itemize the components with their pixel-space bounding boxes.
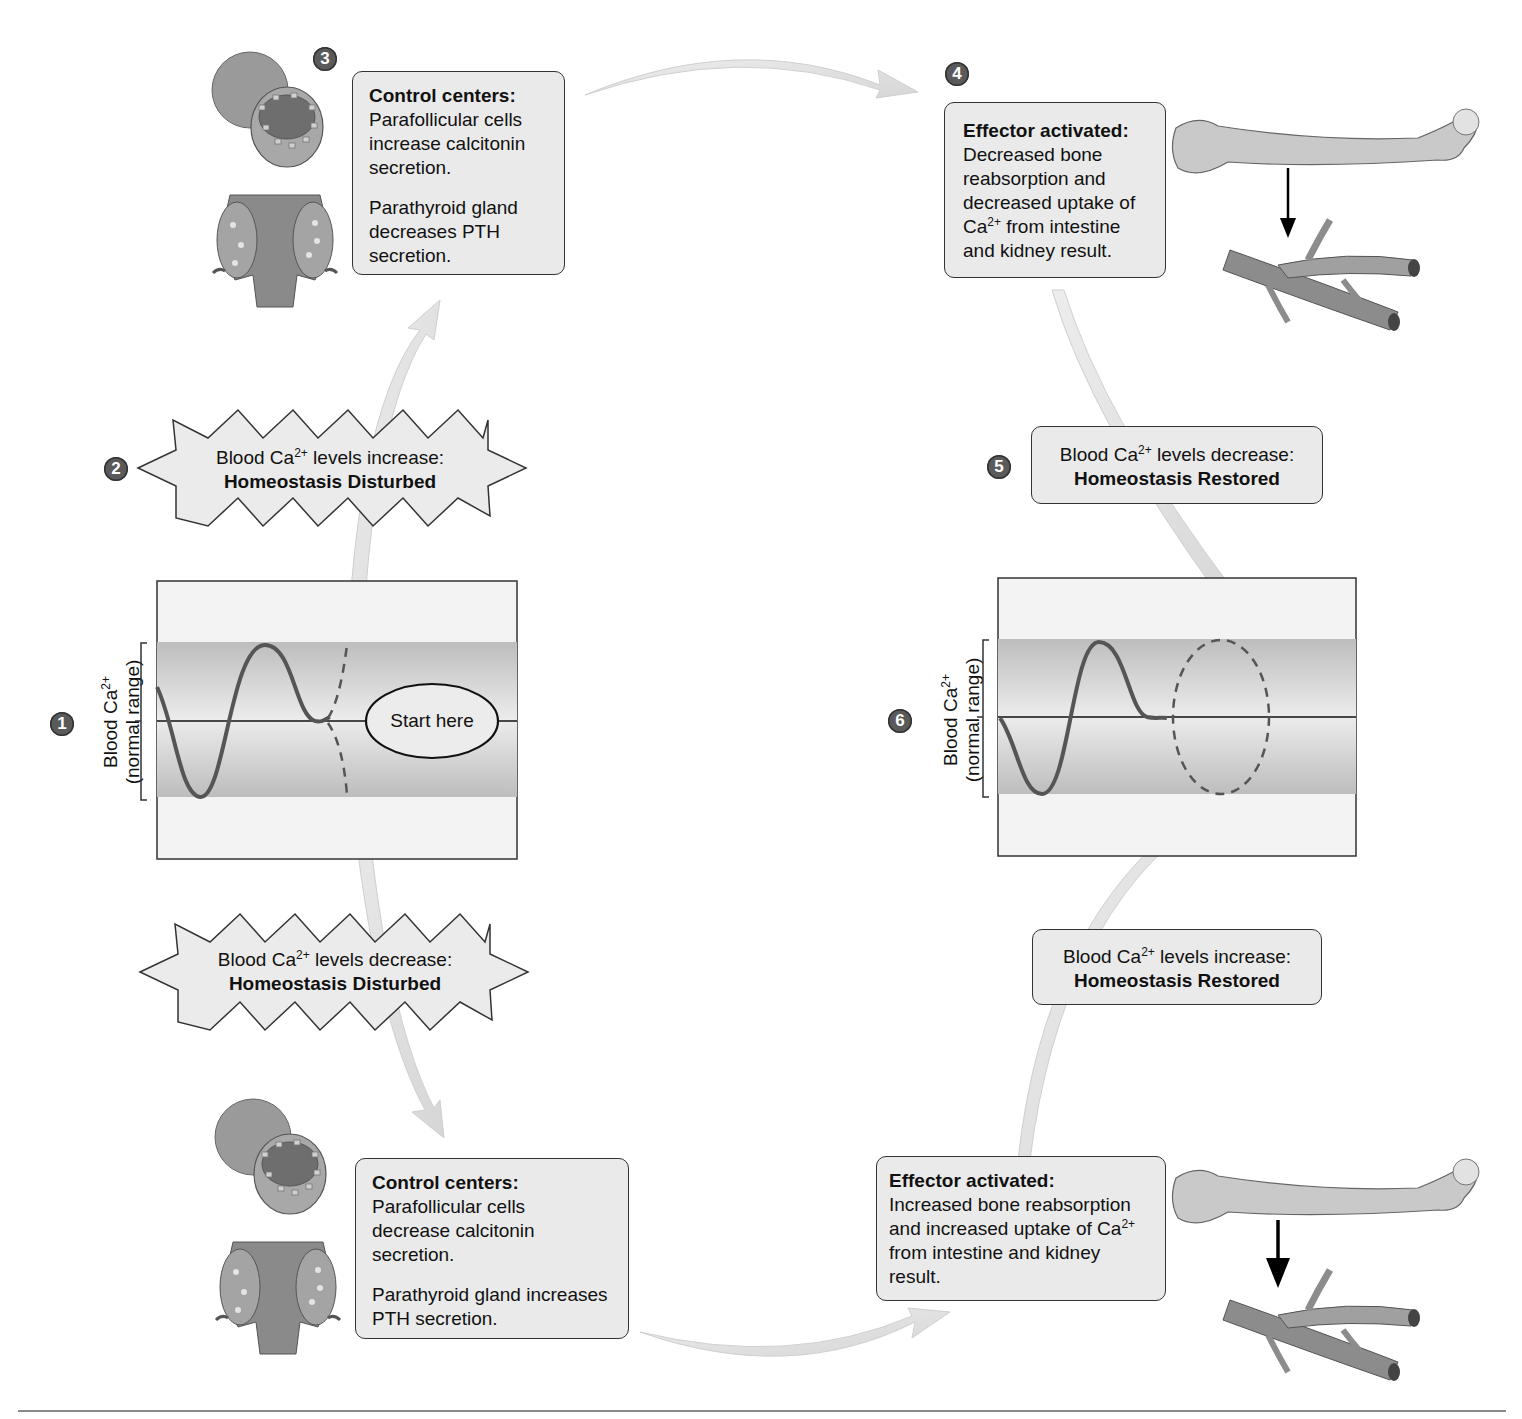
step-badge-2: 2 — [104, 457, 128, 481]
disturbed-decrease-text: Blood Ca2+ levels decrease: Homeostasis … — [165, 948, 505, 996]
control-top-para1: Parafollicular cells increase calcitonin… — [369, 108, 548, 180]
effector-box-top: Effector activated: Decreased bone reabs… — [944, 102, 1166, 278]
arrow-3-to-4 — [585, 60, 918, 98]
effector-box-bottom: Effector activated: Increased bone reabs… — [876, 1156, 1166, 1301]
disturbed-increase-text: Blood Ca2+ levels increase: Homeostasis … — [160, 446, 500, 494]
effector-top-heading: Effector activated: — [963, 119, 1147, 143]
control-centers-box-top: Control centers: Parafollicular cells in… — [352, 71, 565, 275]
effector-top-text: Decreased bone reabsorption and decrease… — [963, 143, 1147, 263]
thyroid-follicle-illustration-top — [205, 45, 345, 315]
control-bottom-para1: Parafollicular cells decrease calcitonin… — [372, 1195, 562, 1267]
effector-bottom-heading: Effector activated: — [889, 1169, 1153, 1193]
restored-decrease-box: Blood Ca2+ levels decrease: Homeostasis … — [1031, 426, 1323, 504]
control-bottom-para2: Parathyroid gland increases PTH secretio… — [372, 1283, 612, 1331]
effector-bottom-text: Increased bone reabsorption and increase… — [889, 1193, 1153, 1289]
control-top-para2: Parathyroid gland decreases PTH secretio… — [369, 196, 548, 268]
step-badge-5: 5 — [987, 455, 1011, 479]
arrow-control-bottom-to-effector-bottom — [640, 1308, 950, 1356]
step-badge-1: 1 — [50, 712, 74, 736]
bone-and-vessel-illustration-bottom — [1168, 1150, 1488, 1390]
control-bottom-heading: Control centers: — [372, 1171, 612, 1195]
step-badge-4: 4 — [945, 62, 969, 86]
control-top-heading: Control centers: — [369, 84, 548, 108]
right-calcium-graph — [977, 572, 1377, 872]
start-here-label: Start here — [366, 709, 498, 733]
control-centers-box-bottom: Control centers: Parafollicular cells de… — [355, 1158, 629, 1339]
bone-and-vessel-illustration-top — [1168, 100, 1488, 340]
thyroid-follicle-illustration-bottom — [208, 1092, 348, 1362]
step-badge-6: 6 — [888, 709, 912, 733]
footer-divider — [18, 1410, 1506, 1412]
restored-increase-box: Blood Ca2+ levels increase: Homeostasis … — [1032, 929, 1322, 1005]
